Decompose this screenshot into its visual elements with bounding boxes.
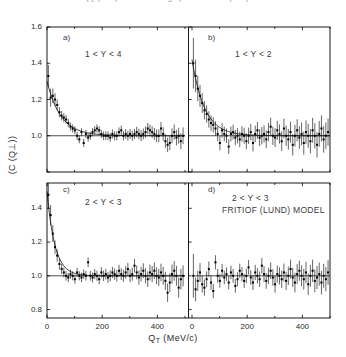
panel-tag-c: c) — [63, 185, 70, 194]
x-tick-left-0: 0 — [45, 322, 49, 331]
plot-svg — [0, 0, 346, 357]
panel-model-label-d: FRITIOF (LUND) MODEL — [222, 205, 325, 215]
x-tick-right-400: 400 — [296, 322, 309, 331]
x-axis-label: QT (MeV/c) — [0, 333, 346, 344]
panel-range-d: 2 < Y < 3 — [232, 193, 269, 203]
panel-tag-d: d) — [208, 185, 215, 194]
y-tick-top-1_4: 1.4 — [16, 58, 42, 67]
panel-tag-b: b) — [208, 33, 215, 42]
x-tick-right-200: 200 — [241, 322, 254, 331]
x-tick-left-400: 400 — [151, 322, 164, 331]
y-tick-top-1_0: 1.0 — [16, 131, 42, 140]
y-tick-bottom-1_4: 1.4 — [16, 203, 42, 212]
panel-tag-a: a) — [63, 33, 70, 42]
y-tick-top-1_2: 1.2 — [16, 95, 42, 104]
y-tick-bottom-1_0: 1.0 — [16, 271, 42, 280]
y-tick-bottom-1_2: 1.2 — [16, 237, 42, 246]
panel-range-b: 1 < Y < 2 — [235, 49, 272, 59]
panel-range-a: 1 < Y < 4 — [85, 49, 122, 59]
y-tick-bottom-0_8: 0.8 — [16, 305, 42, 314]
series-a — [47, 65, 184, 152]
x-axis-label-sub: T — [156, 337, 161, 344]
panel-range-c: 2 < Y < 3 — [85, 197, 122, 207]
y-tick-top-1_6: 1.6 — [16, 22, 42, 31]
x-axis-label-main: Q — [148, 333, 155, 343]
x-tick-right-0: 0 — [190, 322, 194, 331]
x-tick-left-200: 200 — [96, 322, 109, 331]
series-d — [192, 254, 329, 301]
figure-container: (C (Q⊥)) QT (MeV/c) 1.6 1.4 1.2 1.0 1.4 … — [0, 0, 346, 357]
x-axis-label-unit: (MeV/c) — [163, 333, 197, 343]
